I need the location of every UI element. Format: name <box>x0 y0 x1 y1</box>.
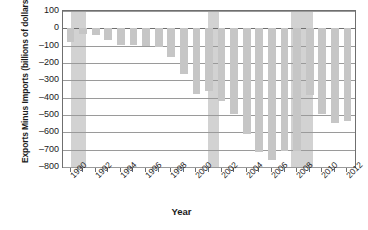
gridline <box>63 11 355 12</box>
bar <box>218 28 226 101</box>
bar <box>230 28 238 114</box>
bar <box>67 28 75 42</box>
gridline <box>63 98 355 99</box>
bar <box>142 28 150 46</box>
bar <box>281 28 289 150</box>
bar <box>205 28 213 91</box>
bar <box>130 28 138 45</box>
gridline <box>63 150 355 151</box>
plot-inner <box>63 11 355 167</box>
bar <box>306 28 314 95</box>
bar <box>117 28 125 45</box>
gridline <box>63 115 355 116</box>
y-tick-label: –600 <box>0 126 59 136</box>
bar <box>92 28 100 35</box>
bar <box>79 28 87 33</box>
y-tick-label: –500 <box>0 109 59 119</box>
y-tick-label: –300 <box>0 74 59 84</box>
bar <box>180 28 188 74</box>
y-tick-label: –700 <box>0 144 59 154</box>
y-tick-label: –400 <box>0 92 59 102</box>
bar <box>318 28 326 114</box>
bar <box>268 28 276 160</box>
plot-area <box>62 10 356 168</box>
bar <box>331 28 339 123</box>
bar <box>193 28 201 93</box>
bar <box>104 28 112 40</box>
y-tick-label: 100 <box>0 5 59 15</box>
x-axis-title: Year <box>0 206 363 217</box>
y-tick-label: –200 <box>0 57 59 67</box>
bar <box>167 28 175 57</box>
y-tick-label: –800 <box>0 161 59 171</box>
bar <box>243 28 251 134</box>
y-tick-label: 0 <box>0 22 59 32</box>
bar <box>344 28 352 121</box>
bar <box>293 28 301 151</box>
bar <box>255 28 263 152</box>
y-tick-label: –100 <box>0 40 59 50</box>
bar <box>155 28 163 47</box>
gridline <box>63 132 355 133</box>
